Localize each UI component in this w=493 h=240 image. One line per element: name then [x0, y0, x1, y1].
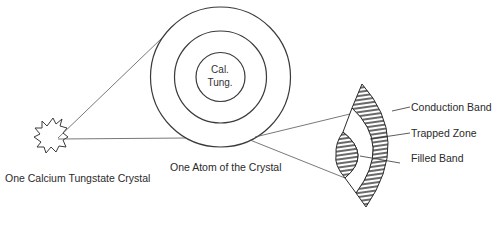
- trapped-zone-label: Trapped Zone: [411, 128, 477, 139]
- projection-line-lower: [58, 138, 186, 139]
- leader-conduction: [392, 107, 410, 111]
- nucleus-label: Cal. Tung.: [200, 64, 240, 89]
- projection-line-upper: [58, 38, 162, 138]
- filled-band-label: Filled Band: [411, 153, 464, 164]
- nucleus-label-line1: Cal.: [200, 64, 240, 77]
- nucleus-label-line2: Tung.: [200, 77, 240, 90]
- projection-line-wedge-upper: [255, 114, 350, 137]
- crystal-label: One Calcium Tungstate Crystal: [5, 173, 150, 184]
- atom-label: One Atom of the Crystal: [170, 162, 281, 173]
- crystal-shape: [34, 118, 68, 153]
- conduction-band-label: Conduction Band: [411, 102, 492, 113]
